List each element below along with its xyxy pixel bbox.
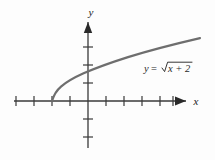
equation-lhs: y <box>143 63 149 74</box>
y-axis-label: y <box>88 6 94 18</box>
equation-annotation: y = x + 2 <box>143 62 192 74</box>
x-axis-arrow-icon <box>175 97 186 106</box>
graph-figure: x y y = x + 2 <box>0 0 215 160</box>
equation-radicand: x + 2 <box>167 63 191 74</box>
x-axis-label: x <box>193 95 199 107</box>
coordinate-plot: x y y = x + 2 <box>0 0 215 160</box>
equation-equals: = <box>151 63 157 74</box>
y-axis-arrow-icon <box>84 22 92 33</box>
